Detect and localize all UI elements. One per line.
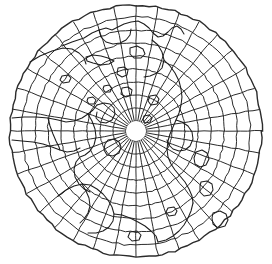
pole-hole-group [126,121,146,141]
graticule-meridian [10,131,126,132]
map-projection-svg [0,0,272,264]
graticule-meridian [136,141,137,257]
pole-hole [126,121,146,141]
graticule-meridian [136,5,137,121]
map-figure [0,0,272,264]
